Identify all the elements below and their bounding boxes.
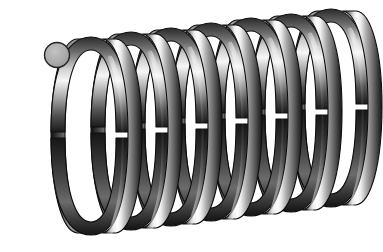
coil-spring-illustration [0,0,383,252]
wire-end-cap-group [45,43,70,68]
figure-canvas: A grayscale three-dimensional rendering … [0,0,383,252]
wire-end-cap [45,43,70,68]
